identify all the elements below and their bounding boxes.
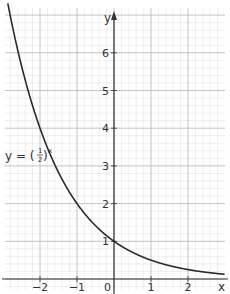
y-tick-label: 2 — [102, 198, 109, 211]
y-tick-label: 3 — [102, 160, 109, 173]
y-tick-label: 5 — [102, 85, 109, 98]
function-label-prefix: y = ( — [5, 149, 34, 163]
y-axis-label: y — [104, 11, 111, 25]
ticks: −2−1012123456 — [32, 47, 192, 294]
x-tick-label: 1 — [148, 281, 155, 294]
y-tick-label: 6 — [102, 47, 109, 60]
function-label-exponent: x — [48, 147, 52, 155]
y-axis-arrow — [111, 11, 117, 20]
function-label-denominator: 2 — [38, 156, 42, 164]
function-label-numerator: 1 — [38, 147, 42, 155]
x-axis-label: x — [218, 280, 225, 294]
axes — [2, 11, 228, 294]
x-tick-label: −1 — [69, 281, 85, 294]
x-tick-label: 0 — [104, 281, 111, 294]
function-label-suffix: ) — [43, 149, 48, 163]
x-tick-label: −2 — [32, 281, 48, 294]
exponential-chart: −2−1012123456 y x y = ( 1 2 ) x — [0, 0, 230, 294]
x-tick-label: 2 — [185, 281, 192, 294]
y-tick-label: 4 — [102, 122, 109, 135]
function-label: y = ( 1 2 ) x — [5, 147, 52, 164]
